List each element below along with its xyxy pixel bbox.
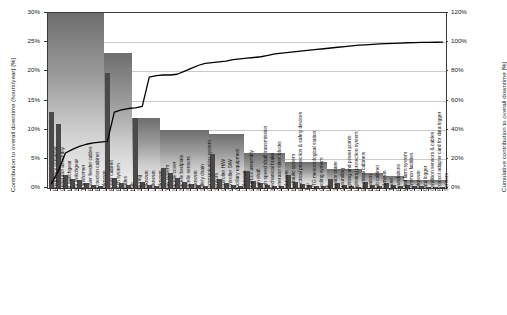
x-tickmark <box>295 188 296 191</box>
x-tickmark <box>428 188 429 191</box>
x-tickmark <box>197 188 198 191</box>
x-tickmark <box>365 188 366 191</box>
right-axis-title: Cumulative contribution to overall downt… <box>500 62 507 192</box>
x-tickmark <box>351 188 352 191</box>
x-tick-label: Power feeder cables <box>87 146 93 191</box>
right-tick-label: 120% <box>451 8 481 15</box>
x-tick-label: Common facilities <box>408 153 414 192</box>
x-tickmark <box>302 188 303 191</box>
right-tick-label: 80% <box>451 66 481 73</box>
x-tickmark <box>134 188 135 191</box>
x-tick-label: Foundations <box>395 164 401 191</box>
x-tickmark <box>176 188 177 191</box>
x-tickmark <box>218 188 219 191</box>
x-tickmark <box>400 188 401 191</box>
x-tickmark <box>372 188 373 191</box>
x-tick-label: Safety chain <box>199 164 205 191</box>
x-tickmark <box>358 188 359 191</box>
x-tick-label: Condition sensors & cables <box>429 132 435 191</box>
x-tickmark <box>50 188 51 191</box>
x-tickmark <box>386 188 387 191</box>
left-tick-label: 0% <box>14 183 40 190</box>
x-tick-label: Nacelle sensors <box>185 156 191 191</box>
x-tick-label: Nacelle bedplate <box>178 155 184 191</box>
left-tick-label: 25% <box>14 37 40 44</box>
x-tick-label: LV switchgear <box>66 161 72 191</box>
x-tick-label: Hydraulic system <box>290 154 296 191</box>
x-tickmark <box>183 188 184 191</box>
x-tick-label: Nacelle cover <box>171 161 177 191</box>
left-tick-label: 15% <box>14 96 40 103</box>
x-tickmark <box>190 188 191 191</box>
x-tickmark <box>309 188 310 191</box>
x-tick-label: Wind farm system <box>402 152 408 191</box>
x-tickmark <box>414 188 415 191</box>
x-tick-label: MV switchgear <box>73 159 79 191</box>
x-tick-label: Lighting and power points <box>346 135 352 191</box>
x-tickmark <box>71 188 72 191</box>
x-tickmark <box>148 188 149 191</box>
x-tickmark <box>113 188 114 191</box>
x-tickmark <box>337 188 338 191</box>
x-tickmark <box>127 188 128 191</box>
x-tick-label: Generator assembly <box>59 147 65 191</box>
x-tickmark <box>267 188 268 191</box>
x-tick-label: Controller H/W <box>220 159 226 191</box>
x-tickmark <box>169 188 170 191</box>
x-tickmark <box>323 188 324 191</box>
x-tickmark <box>78 188 79 191</box>
x-tickmark <box>421 188 422 191</box>
x-tick-label: Generator silent blocks <box>276 141 282 191</box>
x-tickmark <box>211 188 212 191</box>
x-tickmark <box>288 188 289 191</box>
x-tick-label: Protocol adapter card for data logger <box>436 112 442 191</box>
plot-area <box>47 12 447 189</box>
x-tickmark <box>274 188 275 191</box>
right-tick-label: 40% <box>451 125 481 132</box>
x-tick-label: Controller S/W <box>227 159 233 191</box>
x-tick-label: Sensors <box>443 173 449 191</box>
x-tick-label: Power cabinet <box>108 160 114 191</box>
right-tick-label: 0% <box>451 183 481 190</box>
x-tick-label: Pitch system <box>115 163 121 191</box>
x-tick-label: Electrical protection & safety devices <box>297 112 303 191</box>
x-tick-label: Electrical cabinets <box>360 152 366 191</box>
x-tickmark <box>330 188 331 191</box>
x-tickmark <box>232 188 233 191</box>
x-tickmark <box>379 188 380 191</box>
x-tickmark <box>162 188 163 191</box>
x-tickmark <box>316 188 317 191</box>
x-tick-label: Ancillary equipment <box>234 148 240 191</box>
x-tickmark <box>344 188 345 191</box>
x-tickmark <box>64 188 65 191</box>
x-tickmark <box>99 188 100 191</box>
x-tickmark <box>106 188 107 191</box>
x-tickmark <box>204 188 205 191</box>
x-tickmark <box>253 188 254 191</box>
x-tickmark <box>260 188 261 191</box>
x-tick-label: Communication system <box>206 140 212 191</box>
x-tick-label: Mechanical brake <box>269 153 275 191</box>
x-tickmark <box>442 188 443 191</box>
x-tick-label: Lightning protection system <box>353 132 359 191</box>
x-tickmark <box>239 188 240 191</box>
x-tickmark <box>281 188 282 191</box>
x-tickmark <box>435 188 436 191</box>
x-tick-label: Protection cabinet <box>94 152 100 191</box>
x-tickmark <box>155 188 156 191</box>
x-tickmark <box>92 188 93 191</box>
x-tick-label: WTG meteorological station <box>311 131 317 191</box>
x-tick-label: Gearbox assembly <box>248 150 254 191</box>
x-tickmark <box>141 188 142 191</box>
left-tick-label: 20% <box>14 66 40 73</box>
x-tick-label: Cooling system <box>318 158 324 191</box>
x-tickmark <box>393 188 394 191</box>
right-tick-label: 60% <box>451 96 481 103</box>
x-tickmark <box>225 188 226 191</box>
x-tick-label: Service crane <box>332 161 338 191</box>
x-tickmark <box>407 188 408 191</box>
x-tickmark <box>120 188 121 191</box>
left-tick-label: 30% <box>14 8 40 15</box>
x-tickmark <box>57 188 58 191</box>
